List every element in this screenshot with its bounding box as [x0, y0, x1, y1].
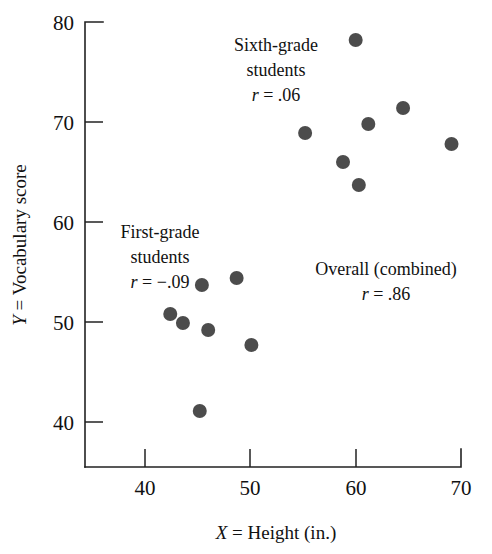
data-point	[195, 278, 209, 292]
annotation-sixth-grade-line2: students	[246, 60, 305, 80]
y-axis-tick-labels: 80 70 60 50 40	[53, 11, 74, 435]
x-axis-spine	[85, 449, 461, 467]
x-tick-label-40: 40	[135, 476, 156, 500]
x-tick-label-50: 50	[240, 476, 261, 500]
x-axis-ticks	[145, 449, 356, 467]
y-tick-label-60: 60	[53, 211, 74, 235]
annotation-sixth-grade-r-value: = .06	[259, 85, 301, 105]
annotation-sixth-grade-correlation: r = .06	[252, 85, 301, 105]
y-axis-title: Y = Vocabulary score	[9, 164, 30, 325]
data-point	[230, 271, 244, 285]
annotation-sixth-grade-line1: Sixth-grade	[234, 35, 318, 55]
data-points-layer	[163, 33, 458, 418]
data-point	[193, 404, 207, 418]
x-axis-title-rest: = Height (in.)	[227, 522, 336, 544]
annotation-overall-line1: Overall (combined)	[315, 259, 456, 280]
y-axis-ticks	[85, 122, 103, 422]
y-axis-spine	[85, 22, 103, 467]
annotation-overall-correlation: r = .86	[362, 284, 411, 304]
y-tick-label-50: 50	[53, 311, 74, 335]
series-sixth-grade-students	[298, 33, 458, 192]
data-point	[349, 33, 363, 47]
data-point	[445, 137, 459, 151]
data-point	[336, 155, 350, 169]
data-point	[298, 126, 312, 140]
data-point	[176, 316, 190, 330]
y-tick-label-70: 70	[53, 111, 74, 135]
annotation-first-grade-r-value: = −.09	[138, 272, 190, 292]
annotation-first-grade-line2: students	[130, 247, 189, 267]
x-axis-tick-labels: 40 50 60 70	[135, 476, 472, 500]
annotation-first-grade-line1: First-grade	[121, 222, 200, 242]
data-point	[201, 323, 215, 337]
data-point	[361, 117, 375, 131]
y-axis-title-rest: = Vocabulary score	[9, 164, 30, 315]
data-point	[396, 101, 410, 115]
y-tick-label-80: 80	[53, 11, 74, 35]
annotation-first-grade-correlation: r = −.09	[131, 272, 190, 292]
y-tick-label-40: 40	[53, 411, 74, 435]
series-first-grade-students	[163, 271, 258, 418]
annotation-sixth-grade: Sixth-grade students r = .06	[234, 35, 318, 105]
data-point	[163, 307, 177, 321]
annotation-overall-r-value: = .86	[369, 284, 411, 304]
x-tick-label-60: 60	[346, 476, 367, 500]
annotation-overall-combined: Overall (combined) r = .86	[315, 259, 456, 304]
data-point	[352, 178, 366, 192]
data-point	[244, 338, 258, 352]
annotation-first-grade: First-grade students r = −.09	[121, 222, 200, 292]
x-tick-label-70: 70	[451, 476, 472, 500]
scatter-plot-figure: 80 70 60 50 40 40 50 60 70 X = Height (i…	[0, 0, 492, 554]
x-axis-title: X = Height (in.)	[215, 522, 336, 544]
scatter-plot-canvas: 80 70 60 50 40 40 50 60 70 X = Height (i…	[0, 0, 492, 554]
